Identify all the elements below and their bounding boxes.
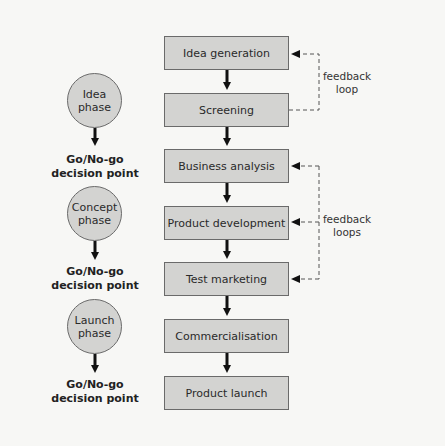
- decision-line1: Go/No-go: [35, 378, 155, 392]
- phase-name: Idea: [83, 88, 107, 101]
- feedback-loop-1: [289, 50, 319, 110]
- phase-concept: Concept phase: [67, 186, 122, 241]
- decision-line2: decision point: [35, 279, 155, 293]
- product-development-diagram: Idea generation Screening Business analy…: [0, 0, 445, 446]
- feedback-loop-label: feedback loop: [322, 70, 372, 96]
- decision-line2: decision point: [35, 167, 155, 181]
- phase-launch: Launch phase: [67, 299, 122, 354]
- stage-label: Business analysis: [178, 160, 275, 173]
- phase-name: Launch: [75, 314, 115, 327]
- phase-word: phase: [78, 327, 111, 340]
- feedback-label-line1: feedback: [322, 213, 372, 226]
- stage-label: Screening: [199, 104, 254, 117]
- feedback-loop-2: [291, 162, 319, 283]
- decision-point-2: Go/No-go decision point: [35, 265, 155, 293]
- phase-word: phase: [78, 101, 111, 114]
- feedback-label-line2: loop: [322, 83, 372, 96]
- decision-line2: decision point: [35, 392, 155, 406]
- stage-test-marketing: Test marketing: [164, 262, 289, 296]
- stage-commercialisation: Commercialisation: [164, 319, 289, 353]
- stage-label: Product launch: [185, 387, 267, 400]
- stage-business-analysis: Business analysis: [164, 149, 289, 183]
- stage-idea-generation: Idea generation: [164, 36, 289, 70]
- decision-line1: Go/No-go: [35, 265, 155, 279]
- phase-name: Concept: [72, 201, 118, 214]
- feedback-label-line1: feedback: [322, 70, 372, 83]
- stage-product-launch: Product launch: [164, 376, 289, 410]
- stage-label: Idea generation: [183, 47, 270, 60]
- stage-screening: Screening: [164, 93, 289, 127]
- stage-label: Product development: [168, 217, 286, 230]
- decision-line1: Go/No-go: [35, 153, 155, 167]
- stage-product-development: Product development: [164, 206, 289, 240]
- stage-label: Commercialisation: [175, 330, 277, 343]
- phase-word: phase: [78, 214, 111, 227]
- phase-idea: Idea phase: [67, 73, 122, 128]
- stage-label: Test marketing: [186, 273, 267, 286]
- feedback-loops-label: feedback loops: [322, 213, 372, 239]
- decision-point-3: Go/No-go decision point: [35, 378, 155, 406]
- decision-point-1: Go/No-go decision point: [35, 153, 155, 181]
- feedback-label-line2: loops: [322, 226, 372, 239]
